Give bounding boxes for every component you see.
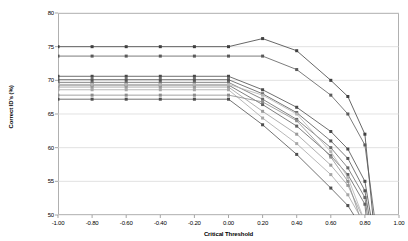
series-line (58, 99, 358, 222)
data-point-marker (363, 133, 366, 136)
data-point-marker (346, 95, 349, 98)
data-point-marker (261, 103, 264, 106)
series-line (58, 76, 372, 221)
data-point-marker (227, 98, 230, 101)
data-point-marker (295, 106, 298, 109)
data-point-marker (227, 86, 230, 89)
x-tick-label: -0.40 (142, 220, 178, 226)
data-point-marker (346, 157, 349, 160)
data-point-marker (159, 83, 162, 86)
data-point-marker (227, 75, 230, 78)
data-point-marker (125, 83, 128, 86)
series-line (58, 39, 373, 222)
data-point-marker (193, 94, 196, 97)
data-series (57, 88, 365, 223)
x-tick-label: 0.00 (211, 220, 247, 226)
x-tick-label: 0.40 (279, 220, 315, 226)
data-point-marker (363, 189, 366, 192)
data-point-marker (329, 156, 332, 159)
data-point-marker (193, 98, 196, 101)
data-point-marker (227, 88, 230, 91)
data-point-marker (346, 176, 349, 179)
data-point-marker (329, 187, 332, 190)
data-point-marker (57, 86, 60, 89)
y-tick-label: 80 (28, 10, 54, 16)
data-point-marker (295, 125, 298, 128)
series-line (58, 85, 367, 222)
y-tick-label: 60 (28, 145, 54, 151)
data-point-marker (329, 139, 332, 142)
data-point-marker (57, 98, 60, 101)
series-line (58, 82, 368, 221)
data-point-marker (193, 86, 196, 89)
series-line (58, 84, 365, 221)
y-tick-label: 75 (28, 44, 54, 50)
data-point-marker (159, 98, 162, 101)
line-chart: 50556065707580 -1.00-0.80-0.60-0.40-0.20… (0, 0, 408, 241)
data-point-marker (227, 55, 230, 58)
data-series (57, 37, 375, 223)
data-point-marker (363, 180, 366, 183)
y-tick-label: 50 (28, 212, 54, 218)
data-point-marker (295, 153, 298, 156)
data-point-marker (193, 45, 196, 48)
data-point-marker (125, 78, 128, 81)
y-tick-label: 65 (28, 111, 54, 117)
series-group (57, 37, 377, 223)
data-point-marker (227, 78, 230, 81)
data-point-marker (346, 204, 349, 207)
y-tick-label: 55 (28, 178, 54, 184)
data-point-marker (193, 55, 196, 58)
data-point-marker (125, 45, 128, 48)
data-series (57, 98, 360, 224)
data-point-marker (193, 83, 196, 86)
data-point-marker (363, 143, 366, 146)
data-point-marker (295, 142, 298, 145)
data-point-marker (295, 68, 298, 71)
data-point-marker (346, 193, 349, 196)
data-point-marker (346, 148, 349, 151)
data-point-marker (329, 94, 332, 97)
data-series (57, 83, 367, 223)
data-point-marker (159, 55, 162, 58)
data-point-marker (346, 166, 349, 169)
data-point-marker (57, 88, 60, 91)
series-line (58, 87, 365, 222)
data-point-marker (295, 119, 298, 122)
data-point-marker (346, 113, 349, 116)
data-point-marker (159, 75, 162, 78)
data-point-marker (125, 86, 128, 89)
data-point-marker (329, 150, 332, 153)
x-tick-label: -1.00 (40, 220, 76, 226)
x-tick-label: -0.20 (176, 220, 212, 226)
data-point-marker (159, 45, 162, 48)
y-tick-label: 70 (28, 77, 54, 83)
data-point-marker (227, 94, 230, 97)
data-point-marker (91, 75, 94, 78)
data-point-marker (125, 55, 128, 58)
data-point-marker (295, 49, 298, 52)
data-point-marker (261, 117, 264, 120)
chart-canvas (0, 0, 408, 241)
data-point-marker (329, 173, 332, 176)
x-tick-label: -0.60 (108, 220, 144, 226)
data-point-marker (261, 55, 264, 58)
data-point-marker (295, 133, 298, 136)
data-point-marker (261, 100, 264, 103)
series-line (58, 80, 370, 222)
data-point-marker (57, 75, 60, 78)
x-axis-title: Critical Threshold (58, 231, 399, 237)
data-point-marker (57, 55, 60, 58)
series-line (58, 90, 363, 222)
data-point-marker (159, 94, 162, 97)
data-point-marker (261, 110, 264, 113)
data-point-marker (329, 146, 332, 149)
x-tick-label: -0.80 (74, 220, 110, 226)
data-point-marker (57, 94, 60, 97)
data-point-marker (329, 79, 332, 82)
x-tick-label: 0.80 (347, 220, 383, 226)
data-point-marker (91, 98, 94, 101)
data-point-marker (91, 83, 94, 86)
data-point-marker (193, 88, 196, 91)
data-point-marker (91, 86, 94, 89)
